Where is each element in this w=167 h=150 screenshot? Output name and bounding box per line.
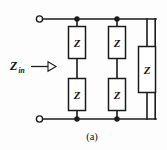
input-impedance-subscript: in: [19, 66, 25, 75]
circuit-figure: Z Z Z Z Z Z in (a): [0, 0, 167, 150]
circuit-diagram: Z Z Z Z Z Z in (a): [0, 0, 167, 150]
junction-dot-top-middle: [114, 16, 119, 21]
terminal-bottom-circle: [36, 116, 42, 122]
junction-dot-top-left: [74, 16, 79, 21]
impedance-label-middle-top: Z: [113, 37, 121, 49]
junction-dot-bottom-middle: [114, 116, 119, 121]
impedance-label-right: Z: [143, 64, 151, 76]
impedance-label-left-bottom: Z: [73, 89, 81, 101]
input-direction-arrow-head: [48, 62, 56, 71]
figure-caption: (a): [86, 131, 98, 143]
impedance-label-middle-bottom: Z: [113, 89, 121, 101]
impedance-label-left-top: Z: [73, 37, 81, 49]
input-impedance-symbol: Z: [9, 59, 18, 73]
terminal-top-circle: [36, 16, 42, 22]
junction-dot-bottom-left: [74, 116, 79, 121]
